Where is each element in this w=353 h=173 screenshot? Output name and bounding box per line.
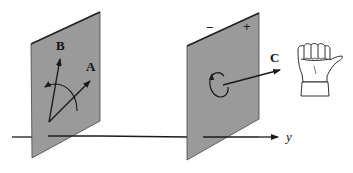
diagram-canvas: B A − + y C bbox=[0, 0, 353, 173]
plus-sign: + bbox=[243, 19, 251, 34]
vector-a-label: A bbox=[86, 59, 96, 74]
right-hand-thumb-icon bbox=[298, 44, 342, 97]
right-plane: − + bbox=[187, 13, 259, 160]
y-axis-middle bbox=[100, 136, 187, 137]
minus-sign: − bbox=[206, 20, 214, 35]
y-axis-label: y bbox=[284, 129, 292, 144]
left-plane: B A bbox=[31, 12, 100, 158]
vector-c-label: C bbox=[270, 50, 279, 65]
vector-b-label: B bbox=[56, 38, 65, 53]
